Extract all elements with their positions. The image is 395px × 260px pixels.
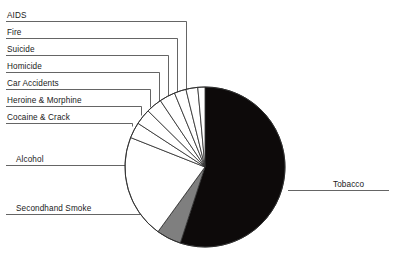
slice-label-alcohol: Alcohol xyxy=(16,156,44,164)
slice-label-cocaine-crack: Cocaine & Crack xyxy=(7,114,70,122)
slice-label-suicide: Suicide xyxy=(7,46,35,54)
pie-chart-figure: AIDS Fire Suicide Homicide Car Accidents… xyxy=(0,0,395,260)
slice-label-fire: Fire xyxy=(7,29,22,37)
pie-chart-canvas xyxy=(0,0,395,260)
slice-label-car-accidents: Car Accidents xyxy=(7,80,59,88)
slice-label-aids: AIDS xyxy=(7,12,27,20)
slice-label-secondhand-smoke: Secondhand Smoke xyxy=(16,205,91,213)
pie-slices xyxy=(125,87,285,247)
slice-label-homicide: Homicide xyxy=(7,63,42,71)
leader-line-cocaine-crack xyxy=(6,124,133,127)
slice-label-heroine-morphine: Heroine & Morphine xyxy=(7,97,82,105)
slice-label-tobacco: Tobacco xyxy=(333,181,364,189)
